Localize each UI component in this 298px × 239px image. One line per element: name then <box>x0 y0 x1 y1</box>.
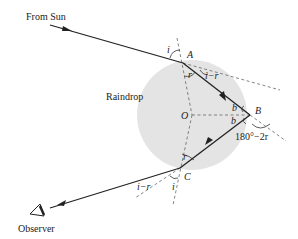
angle-i-a: i <box>167 44 170 55</box>
deviation-a: i−r <box>205 70 219 81</box>
from-sun-label: From Sun <box>26 11 66 22</box>
angle-b-lower: b <box>231 115 236 126</box>
center-o-label: O <box>181 110 188 121</box>
angle-r-c: r <box>183 151 187 162</box>
raindrop-diagram: From Sun Raindrop Observer A B C O i r i… <box>0 0 298 239</box>
deviation-b: 180°−2r <box>235 131 269 142</box>
deviation-c: i−r <box>137 181 151 192</box>
angle-r-a: r <box>188 69 192 80</box>
raindrop-label: Raindrop <box>106 91 143 102</box>
point-a-label: A <box>186 49 194 60</box>
angle-i-c: i <box>172 181 175 192</box>
observer-label: Observer <box>18 223 55 234</box>
point-b-label: B <box>255 105 261 116</box>
angle-b-upper: b <box>232 102 237 113</box>
eye-icon <box>30 204 44 216</box>
point-c-label: C <box>184 171 191 182</box>
